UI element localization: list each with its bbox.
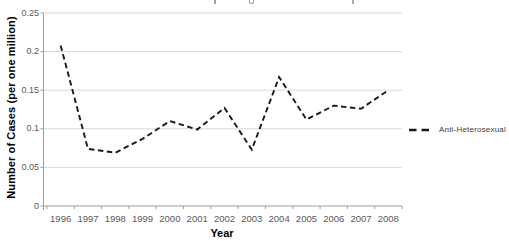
x-tick-label: 2008	[371, 213, 405, 224]
cropped-title-fragment	[352, 0, 354, 4]
cropped-title-fragment	[214, 0, 216, 4]
series-line-anti-heterosexual	[61, 45, 389, 152]
y-axis-title: Number of Cases (per one million)	[5, 8, 20, 208]
plot-area	[0, 0, 509, 241]
line-chart: 00.050.10.150.20.25199619971998199920002…	[0, 0, 509, 241]
legend-label: Anti-Heterosexual	[439, 125, 506, 134]
dashed-line-legend-marker	[409, 127, 434, 133]
x-axis-title: Year	[187, 227, 257, 239]
legend: Anti-Heterosexual	[409, 122, 506, 137]
cropped-title-fragment	[249, 0, 254, 4]
